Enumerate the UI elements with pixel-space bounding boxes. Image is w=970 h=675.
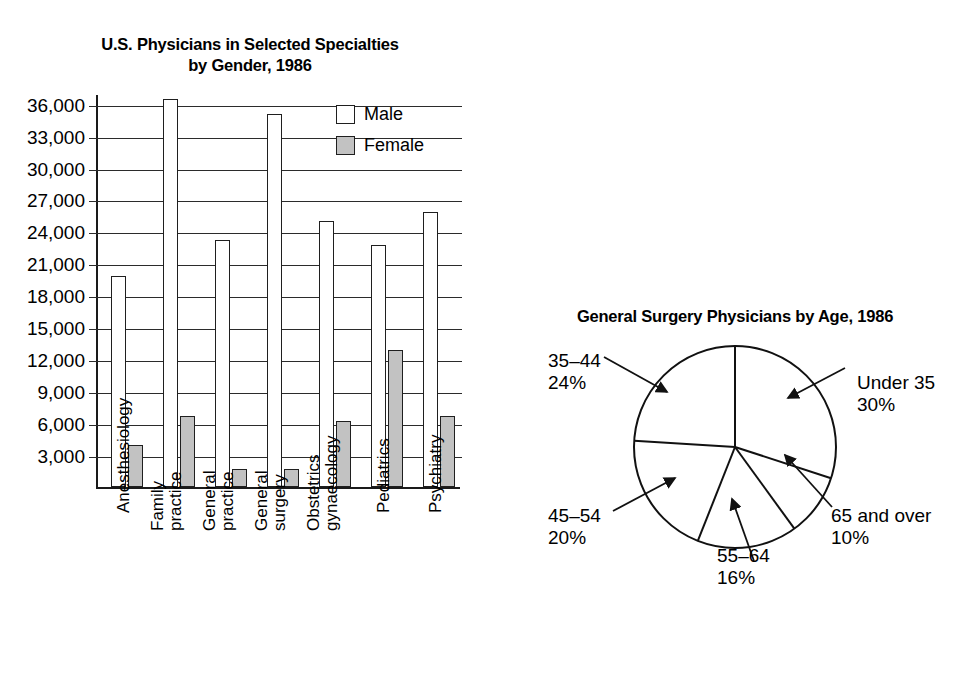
x-axis-category-label-line: Pediatrics <box>374 438 393 513</box>
y-axis-label: 12,000 <box>27 351 85 370</box>
y-axis-tick <box>89 457 98 458</box>
pie-chart-figure: General Surgery Physicians by Age, 1986 <box>500 0 970 675</box>
x-axis-category-label-line: surgery <box>271 471 289 531</box>
pie-label-55-64: 55–64 16% <box>717 545 770 589</box>
y-axis-tick <box>89 138 98 139</box>
y-axis-tick <box>89 170 98 171</box>
x-axis-category-label: Psychiatry <box>427 435 445 513</box>
pie-label-35-44-text: 35–44 <box>548 350 601 371</box>
x-axis-category-label-line: Anesthesiology <box>114 398 133 513</box>
callout-arrow-35-44 <box>604 357 667 392</box>
pie-slices <box>634 346 836 548</box>
y-axis-label: 3,000 <box>37 447 85 466</box>
bar-chart-title-line1: U.S. Physicians in Selected Specialties <box>101 35 399 53</box>
pie-label-65-over: 65 and over 10% <box>831 505 931 549</box>
chart-page: U.S. Physicians in Selected Specialties … <box>0 0 970 675</box>
x-axis-category-label: Familypractice <box>149 471 185 531</box>
y-axis-tick <box>89 297 98 298</box>
x-axis-category-label-line: Obstetrics <box>304 454 323 531</box>
pie-label-65-over-text: 65 and over <box>831 505 931 526</box>
x-axis-category-label-line: General <box>252 471 271 531</box>
x-axis-category-label: Obstetricsgynaecology <box>305 436 341 531</box>
bar-chart-figure: U.S. Physicians in Selected Specialties … <box>0 0 500 675</box>
x-axis-category-label-line: practice <box>167 471 185 531</box>
bar-chart-legend: Male Female <box>336 99 446 161</box>
pie-label-35-44: 35–44 24% <box>548 350 601 394</box>
y-axis-label: 33,000 <box>27 128 85 147</box>
y-axis-label: 18,000 <box>27 287 85 306</box>
x-axis-category-label: Anesthesiology <box>115 398 133 513</box>
y-axis-tick <box>89 265 98 266</box>
y-axis-tick <box>89 425 98 426</box>
pie-label-55-64-text: 55–64 <box>717 545 770 566</box>
x-axis-category-label-line: General <box>200 471 219 531</box>
x-axis-category-label: Generalpractice <box>201 471 237 531</box>
y-axis-tick <box>89 393 98 394</box>
y-axis-tick <box>89 106 98 107</box>
pie-label-35-44-pct: 24% <box>548 372 601 394</box>
x-axis-category-label-line: practice <box>219 471 237 531</box>
pie-label-45-54-text: 45–54 <box>548 505 601 526</box>
legend-label-female: Female <box>364 135 424 156</box>
y-axis-label: 21,000 <box>27 255 85 274</box>
y-axis-label: 30,000 <box>27 160 85 179</box>
y-axis-label: 24,000 <box>27 223 85 242</box>
legend-item-male: Male <box>336 99 446 130</box>
pie-label-under-35-pct: 30% <box>857 394 935 416</box>
x-axis-category-label-line: Family <box>148 481 167 531</box>
bar-male <box>215 240 231 487</box>
pie-chart-title: General Surgery Physicians by Age, 1986 <box>500 307 970 326</box>
white-square-icon <box>336 105 355 124</box>
pie-label-under-35-text: Under 35 <box>857 372 935 393</box>
x-axis-category-label-line: Psychiatry <box>426 435 445 513</box>
y-axis-label: 6,000 <box>37 415 85 434</box>
pie-label-55-64-pct: 16% <box>717 567 770 589</box>
pie-label-65-over-pct: 10% <box>831 527 931 549</box>
pie-label-45-54-pct: 20% <box>548 527 601 549</box>
y-axis-tick <box>89 233 98 234</box>
x-axis-category-label: Generalsurgery <box>253 471 289 531</box>
bar-male <box>267 114 283 487</box>
bar-male <box>163 99 179 487</box>
y-axis-tick <box>89 201 98 202</box>
y-axis-tick <box>89 329 98 330</box>
y-axis-tick <box>89 361 98 362</box>
bar-chart-title: U.S. Physicians in Selected Specialties … <box>50 34 450 76</box>
pie-label-under-35: Under 35 30% <box>857 372 935 416</box>
gray-square-icon <box>336 136 355 155</box>
x-axis-category-label-line: gynaecology <box>323 436 341 531</box>
y-axis-label: 9,000 <box>37 383 85 402</box>
legend-item-female: Female <box>336 130 446 161</box>
pie-label-45-54: 45–54 20% <box>548 505 601 549</box>
y-axis-label: 27,000 <box>27 191 85 210</box>
bar-chart-title-line2: by Gender, 1986 <box>50 55 450 76</box>
x-axis-category-label: Pediatrics <box>375 438 393 513</box>
y-axis-label: 36,000 <box>27 96 85 115</box>
legend-label-male: Male <box>364 104 403 125</box>
y-axis-label: 15,000 <box>27 319 85 338</box>
